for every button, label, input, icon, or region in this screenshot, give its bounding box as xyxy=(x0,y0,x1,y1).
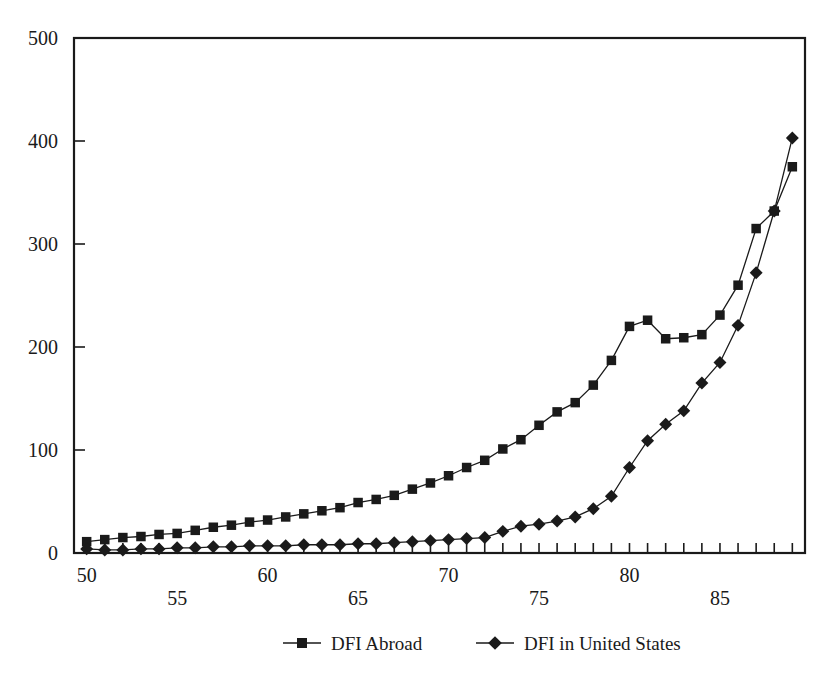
data-point-marker xyxy=(732,319,745,332)
x-axis-tick-label: 65 xyxy=(348,587,368,609)
data-point-marker xyxy=(480,456,490,466)
data-point-marker xyxy=(607,356,617,366)
data-point-marker xyxy=(552,407,562,417)
data-point-marker xyxy=(788,162,798,172)
data-point-marker xyxy=(751,224,761,234)
data-point-marker xyxy=(679,333,689,343)
data-point-marker xyxy=(514,520,527,533)
data-point-marker xyxy=(715,310,725,320)
data-point-marker xyxy=(733,280,743,290)
data-point-marker xyxy=(388,536,401,549)
data-point-marker xyxy=(118,533,128,543)
legend-marker-diamond xyxy=(488,636,502,650)
y-axis-tick-label: 200 xyxy=(28,336,58,358)
data-series-layer xyxy=(80,131,799,556)
data-point-marker xyxy=(154,530,164,540)
y-axis-tick-label: 100 xyxy=(28,439,58,461)
legend-item[interactable]: DFI Abroad xyxy=(283,633,423,654)
y-axis-tick-label: 300 xyxy=(28,233,58,255)
data-point-marker xyxy=(136,532,146,542)
x-axis-tick-label: 50 xyxy=(77,564,97,586)
data-point-marker xyxy=(335,503,345,513)
data-point-marker xyxy=(442,533,455,546)
data-point-marker xyxy=(516,435,526,445)
data-point-marker xyxy=(406,535,419,548)
x-axis-labels: 5060708055657585 xyxy=(77,564,730,609)
data-point-marker xyxy=(243,539,256,552)
data-point-marker xyxy=(589,380,599,390)
data-point-marker xyxy=(263,515,273,525)
x-axis-tick-label: 80 xyxy=(619,564,639,586)
data-point-marker xyxy=(478,531,491,544)
data-point-marker xyxy=(496,525,509,538)
y-axis-labels: 0100200300400500 xyxy=(28,27,58,564)
data-point-marker xyxy=(661,334,671,344)
series-line xyxy=(87,138,793,550)
data-point-marker xyxy=(334,538,347,551)
data-point-marker xyxy=(352,537,365,550)
data-point-marker xyxy=(172,529,182,539)
data-point-marker xyxy=(426,478,436,488)
chart-legend: DFI AbroadDFI in United States xyxy=(283,633,681,654)
data-point-marker xyxy=(625,322,635,332)
data-point-marker xyxy=(281,512,291,522)
data-point-marker xyxy=(605,490,618,503)
x-axis-tick-label: 85 xyxy=(710,587,730,609)
data-point-marker xyxy=(697,330,707,340)
data-point-marker xyxy=(370,537,383,550)
data-point-marker xyxy=(533,518,546,531)
x-axis-tick-label: 75 xyxy=(529,587,549,609)
data-point-marker xyxy=(534,421,544,431)
data-point-marker xyxy=(677,404,690,417)
data-point-marker xyxy=(279,539,292,552)
data-point-marker xyxy=(297,538,310,551)
series-line xyxy=(87,167,793,542)
data-point-marker xyxy=(98,543,111,556)
series-dfi-abroad xyxy=(82,162,797,546)
data-point-marker xyxy=(587,502,600,515)
data-point-marker xyxy=(569,510,582,523)
data-point-marker xyxy=(750,266,763,279)
data-point-marker xyxy=(317,506,327,516)
data-point-marker xyxy=(786,131,799,144)
legend-label: DFI in United States xyxy=(524,633,681,654)
line-chart: 0100200300400500 5060708055657585 DFI Ab… xyxy=(0,0,831,674)
data-point-marker xyxy=(225,540,238,553)
data-point-marker xyxy=(462,463,472,473)
data-point-marker xyxy=(498,444,508,454)
data-point-marker xyxy=(424,534,437,547)
data-point-marker xyxy=(315,538,328,551)
plot-frame xyxy=(74,38,805,553)
y-axis-ticks xyxy=(74,141,85,450)
data-point-marker xyxy=(116,543,129,556)
legend-label: DFI Abroad xyxy=(331,633,423,654)
data-point-marker xyxy=(100,535,110,545)
series-dfi-in-united-states xyxy=(80,131,799,556)
data-point-marker xyxy=(299,509,309,519)
y-axis-tick-label: 500 xyxy=(28,27,58,49)
data-point-marker xyxy=(207,540,220,553)
y-axis-tick-label: 400 xyxy=(28,130,58,152)
data-point-marker xyxy=(460,532,473,545)
data-point-marker xyxy=(570,398,580,408)
data-point-marker xyxy=(227,520,237,530)
data-point-marker xyxy=(190,526,200,536)
data-point-marker xyxy=(444,471,454,481)
legend-marker-square xyxy=(297,638,307,648)
data-point-marker xyxy=(353,498,363,508)
x-axis-tick-label: 70 xyxy=(439,564,459,586)
x-axis-tick-label: 60 xyxy=(258,564,278,586)
chart-container: 0100200300400500 5060708055657585 DFI Ab… xyxy=(0,0,831,674)
data-point-marker xyxy=(245,517,255,527)
data-point-marker xyxy=(643,315,653,325)
data-point-marker xyxy=(261,539,274,552)
data-point-marker xyxy=(623,461,636,474)
data-point-marker xyxy=(390,491,400,501)
data-point-marker xyxy=(551,515,564,528)
y-axis-tick-label: 0 xyxy=(48,542,58,564)
legend-item[interactable]: DFI in United States xyxy=(476,633,681,654)
data-point-marker xyxy=(371,495,381,505)
data-point-marker xyxy=(209,523,219,533)
data-point-marker xyxy=(408,484,418,494)
x-axis-tick-label: 55 xyxy=(167,587,187,609)
